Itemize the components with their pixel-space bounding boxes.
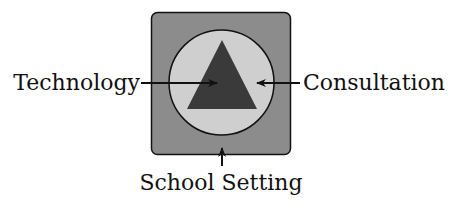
- school-setting-label: School Setting: [139, 170, 302, 195]
- technology-label: Technology: [13, 70, 140, 95]
- diagram-canvas: Technology Consultation School Setting: [0, 0, 460, 210]
- consultation-label: Consultation: [303, 70, 445, 95]
